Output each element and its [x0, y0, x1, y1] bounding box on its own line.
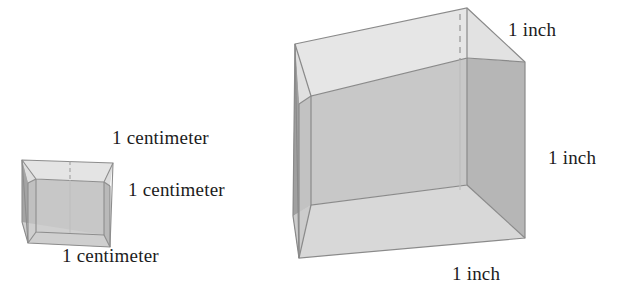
- figure-canvas: 1 centimeter 1 centimeter 1 centimeter 1…: [0, 0, 624, 300]
- cm-cube-top-edge-label: 1 centimeter: [112, 128, 209, 147]
- cm-cube-bottom-edge-label: 1 centimeter: [62, 246, 159, 265]
- inch-cube-right-edge-label: 1 inch: [548, 148, 596, 167]
- centimeter-cube-body: [22, 160, 113, 247]
- inch-cube-bottom-edge-label: 1 inch: [452, 264, 500, 283]
- inch-cube-top-edge-label: 1 inch: [508, 20, 556, 39]
- inch-cube-body: [293, 8, 525, 258]
- cm-cube-right-edge-label: 1 centimeter: [128, 180, 225, 199]
